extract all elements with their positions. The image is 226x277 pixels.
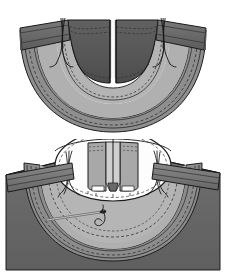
- facing-center-gap: [111, 20, 116, 78]
- facing-left-panel: [88, 142, 106, 191]
- panel-facing-turned-and-slipstitched: Step 2 — facing turned to inside and sli…: [0, 139, 226, 277]
- facing-right-panel: [120, 142, 138, 191]
- center-front-band: [106, 142, 120, 191]
- illustration-figure: Attaching neckline facing: [0, 0, 226, 277]
- panel-facing-pinned-flat: Step 1 — facing stitched to neckline, se…: [0, 0, 226, 139]
